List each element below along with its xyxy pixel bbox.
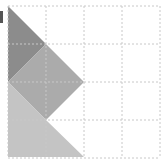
puzzle-diagram [0,0,162,167]
edge-mark [0,11,3,23]
